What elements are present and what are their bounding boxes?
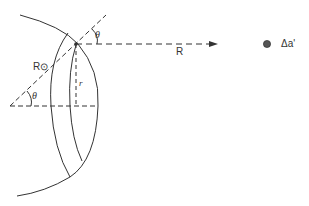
area-element-icon [263,40,270,47]
theta-arc-bottom [27,91,32,106]
arrowhead-icon [209,41,218,47]
theta-top-label: θ [95,30,100,40]
r-small-label: r [79,79,83,88]
R-distance-label: R [176,47,183,57]
point-p [74,42,78,46]
geometry-diagram [0,0,309,206]
theta-bottom-label: θ [32,91,37,101]
outer-ellipse-arc [51,33,70,177]
r-sun-label: R⊙ [33,62,48,72]
delta-a-label: Δa' [281,39,295,49]
